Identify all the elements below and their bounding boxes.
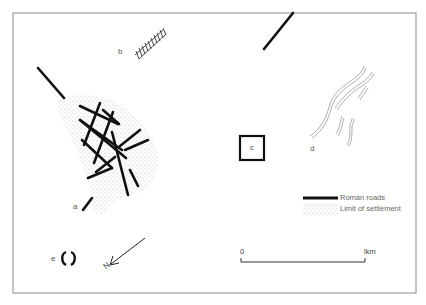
feature-b	[135, 28, 166, 59]
scale-end-label: lkm	[364, 248, 376, 256]
scale-bar	[241, 258, 365, 262]
site-label-d: d	[310, 145, 314, 153]
site-label-a: a	[73, 203, 77, 211]
north-arrow-icon	[110, 238, 145, 265]
feature-e	[62, 252, 75, 265]
roman-road-north	[264, 13, 293, 49]
site-label-e: e	[51, 255, 55, 263]
site-label-b: b	[118, 48, 122, 56]
legend-label-settlement: Limit of settlement	[340, 205, 401, 213]
map-figure: a b c d e N Roman roads Limit of settlem…	[0, 0, 426, 305]
site-label-c: c	[250, 144, 254, 152]
feature-d	[310, 66, 374, 146]
legend-label-roman-roads: Roman roads	[340, 194, 385, 202]
map-frame	[13, 13, 416, 293]
legend-stipple-symbol	[303, 203, 338, 216]
map-canvas	[0, 0, 426, 305]
scale-start-label: 0	[240, 248, 244, 256]
